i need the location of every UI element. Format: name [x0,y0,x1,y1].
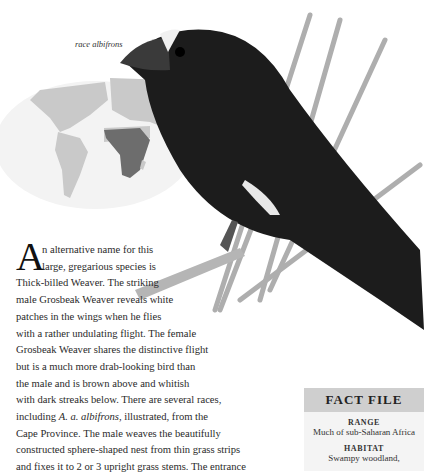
article-line: large, gregarious species is [16,259,326,276]
fact-file-title: FACT FILE [304,388,424,412]
article-line: the male and is brown above and whitish [16,376,326,393]
article-line: constructed sphere-shaped nest from thin… [16,442,326,459]
illustration-caption: race albifrons [75,39,123,49]
article-line: with dark streaks below. There are sever… [16,392,326,409]
fact-value-habitat: Swampy woodland, [304,453,424,464]
fact-value-range: Much of sub-Saharan Africa [304,427,424,438]
article-line: with a rather undulating flight. The fem… [16,326,326,343]
article-line: and fixes it to 2 or 3 upright grass ste… [16,459,326,476]
article-line: Thick-billed Weaver. The striking [16,275,326,292]
species-name: A. a. albifrons [59,411,119,422]
fact-file-box: FACT FILE RANGE Much of sub-Saharan Afri… [304,388,424,471]
article-line: male Grosbeak Weaver reveals white [16,292,326,309]
article-line: Grosbeak Weaver shares the distinctive f… [16,342,326,359]
article-body: n alternative name for this large, grega… [16,242,326,476]
bird-beak [120,38,170,70]
article-line: patches in the wings when he flies [16,309,326,326]
line-end: , illustrated, from the [119,411,208,422]
bird-eye [175,47,185,57]
article-line: including A. a. albifrons, illustrated, … [16,409,326,426]
article-line: but is a much more drab-looking bird tha… [16,359,326,376]
line-start: including [16,411,59,422]
article-line: Cape Province. The male weaves the beaut… [16,426,326,443]
article-line: n alternative name for this [16,242,326,259]
fact-label-habitat: HABITAT [304,444,424,453]
fact-label-range: RANGE [304,418,424,427]
